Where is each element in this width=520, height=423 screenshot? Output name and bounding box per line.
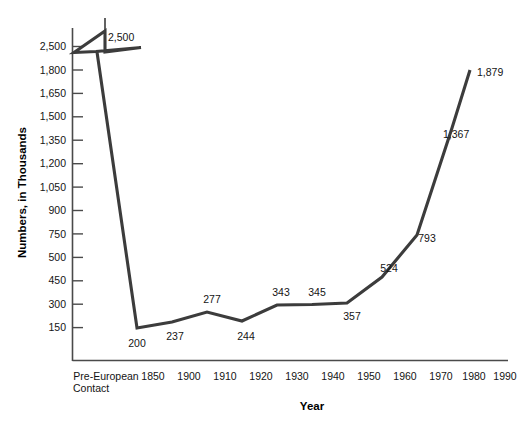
y-tick-label-750: 750	[48, 228, 66, 240]
y-tick-label-1350: 1,350	[40, 134, 66, 146]
y-tick-label-450: 450	[48, 274, 66, 286]
x-tick-label-pre-european: Pre-European	[73, 370, 139, 382]
x-tick-label-1960: 1960	[393, 370, 417, 382]
point-label-1970: 793	[418, 232, 436, 244]
y-axis-title: Numbers, in Thousands	[16, 127, 28, 258]
chart-container: Numbers, in Thousands 2,500 1,800 1,650 …	[0, 0, 520, 423]
line-chart: Numbers, in Thousands 2,500 1,800 1,650 …	[0, 0, 520, 423]
x-tick-label-1990: 1990	[493, 370, 517, 382]
point-label-1950: 357	[343, 310, 361, 322]
y-tick-label-300: 300	[48, 298, 66, 310]
point-label-1900: 237	[166, 330, 184, 342]
point-label-1960: 524	[380, 262, 398, 274]
x-tick-label-1970: 1970	[429, 370, 453, 382]
x-tick-label-1920: 1920	[249, 370, 273, 382]
x-tick-label-1940: 1940	[321, 370, 345, 382]
x-tick-label-1930: 1930	[285, 370, 309, 382]
y-tick-label-2500: 2,500	[40, 40, 66, 52]
point-label-1910: 277	[203, 293, 221, 305]
y-tick-label-1650: 1,650	[40, 87, 66, 99]
y-tick-marks	[72, 47, 83, 328]
point-label-1980: 1,367	[443, 128, 469, 140]
x-tick-label-1900: 1900	[177, 370, 201, 382]
point-label-1920: 244	[237, 330, 255, 342]
x-tick-label-1910: 1910	[213, 370, 237, 382]
x-tick-label-1850: 1850	[141, 370, 165, 382]
x-tick-label-1950: 1950	[357, 370, 381, 382]
y-tick-label-500: 500	[48, 251, 66, 263]
y-tick-label-1800: 1,800	[40, 64, 66, 76]
x-tick-label-1980: 1980	[462, 370, 486, 382]
y-tick-label-1500: 1,500	[40, 110, 66, 122]
x-tick-label-pre-european-contact-line2: Contact	[73, 382, 109, 394]
y-tick-label-1050: 1,050	[40, 181, 66, 193]
point-label-pre-european-contact: 2,500	[108, 31, 134, 43]
point-label-1940: 345	[308, 286, 326, 298]
point-label-1850: 200	[128, 337, 146, 349]
y-tick-label-150: 150	[48, 321, 66, 333]
point-label-1930: 343	[272, 286, 290, 298]
y-tick-label-900: 900	[48, 204, 66, 216]
x-axis-title: Year	[300, 400, 325, 412]
point-label-1990: 1,879	[477, 66, 503, 78]
y-tick-label-1200: 1,200	[40, 157, 66, 169]
